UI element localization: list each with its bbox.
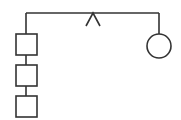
diagram-canvas [0,0,181,120]
